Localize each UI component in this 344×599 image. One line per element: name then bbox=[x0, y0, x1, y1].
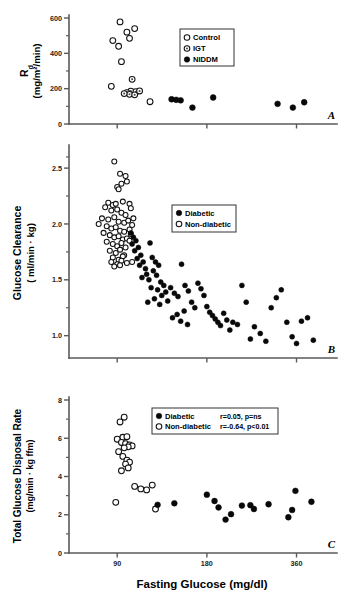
data-point-igt-dot bbox=[134, 94, 136, 96]
data-point-control bbox=[132, 26, 138, 32]
data-point-control bbox=[117, 19, 123, 25]
data-point-diabetic bbox=[274, 295, 279, 300]
data-point-control bbox=[108, 83, 114, 89]
legend-label-non-diabetic: Non-diabetic bbox=[185, 220, 231, 229]
legend-marker-diabetic bbox=[156, 413, 162, 419]
data-point-diabetic bbox=[168, 285, 173, 290]
x-ticklabel: 90 bbox=[113, 559, 121, 568]
data-point-non-diabetic bbox=[112, 264, 117, 269]
data-point-diabetic bbox=[144, 272, 149, 277]
data-point-diabetic bbox=[252, 324, 257, 329]
data-point-diabetic bbox=[163, 290, 168, 295]
data-point-diabetic bbox=[212, 498, 218, 504]
panel-A-y-ticklabel: 600 bbox=[50, 14, 62, 23]
data-point-diabetic bbox=[248, 337, 253, 342]
data-point-diabetic bbox=[235, 322, 240, 327]
panel-A-y-ticklabel: 400 bbox=[50, 49, 62, 58]
legend-label-diabetic: Diabetic bbox=[165, 412, 195, 421]
panel-C-y-ticklabel: 2 bbox=[58, 510, 62, 519]
data-point-non-diabetic bbox=[123, 173, 128, 178]
data-point-diabetic bbox=[285, 514, 291, 520]
data-point-diabetic bbox=[146, 277, 151, 282]
data-point-diabetic bbox=[159, 293, 164, 298]
figure-container: 0200400600A1.01.52.02.5B0246890180360CRd… bbox=[0, 0, 344, 599]
data-point-non-diabetic bbox=[117, 419, 123, 425]
data-point-non-diabetic bbox=[149, 482, 155, 488]
data-point-diabetic bbox=[216, 505, 222, 511]
legend-marker-diabetic bbox=[176, 210, 182, 216]
data-point-niddm bbox=[301, 99, 307, 105]
data-point-diabetic bbox=[175, 294, 180, 299]
data-point-diabetic bbox=[289, 507, 295, 513]
data-point-diabetic bbox=[198, 286, 203, 291]
data-point-non-diabetic bbox=[116, 449, 122, 455]
data-point-diabetic bbox=[128, 230, 133, 235]
data-point-diabetic bbox=[171, 500, 177, 506]
panel-A-y-ticklabel: 200 bbox=[50, 84, 62, 93]
data-point-non-diabetic bbox=[138, 486, 144, 492]
data-point-diabetic bbox=[175, 312, 180, 317]
data-point-diabetic bbox=[170, 315, 175, 320]
data-point-non-diabetic bbox=[122, 229, 127, 234]
data-point-diabetic bbox=[284, 320, 289, 325]
data-point-diabetic bbox=[179, 262, 184, 267]
data-point-non-diabetic bbox=[124, 261, 129, 266]
data-point-non-diabetic bbox=[124, 434, 130, 440]
panel-C-y-axis-units: (mg/min · kg ffm) bbox=[25, 440, 35, 513]
x-ticklabel: 360 bbox=[291, 559, 303, 568]
data-point-diabetic bbox=[154, 273, 159, 278]
panel-A-y-axis-units: (mg/m²/min) bbox=[31, 44, 42, 99]
data-point-diabetic bbox=[269, 305, 274, 310]
data-point-non-diabetic bbox=[130, 223, 135, 228]
legend-label-non-diabetic: Non-diabetic bbox=[165, 422, 211, 431]
data-point-non-diabetic bbox=[116, 187, 121, 192]
data-point-diabetic bbox=[239, 283, 244, 288]
data-point-non-diabetic bbox=[118, 263, 123, 268]
data-point-non-diabetic bbox=[119, 240, 124, 245]
data-point-diabetic bbox=[224, 318, 229, 323]
data-point-control bbox=[124, 29, 130, 35]
data-point-diabetic bbox=[155, 502, 161, 508]
data-point-diabetic bbox=[195, 281, 200, 286]
data-point-diabetic bbox=[182, 283, 187, 288]
data-point-non-diabetic bbox=[109, 208, 114, 213]
data-point-diabetic bbox=[309, 499, 315, 505]
data-point-control bbox=[110, 38, 116, 44]
legend-label-igt: IGT bbox=[193, 44, 206, 53]
data-point-non-diabetic bbox=[119, 468, 125, 474]
data-point-diabetic bbox=[293, 488, 299, 494]
data-point-non-diabetic bbox=[118, 247, 123, 252]
data-point-diabetic bbox=[204, 304, 209, 309]
data-point-diabetic bbox=[218, 323, 223, 328]
legend-marker-control bbox=[184, 35, 190, 41]
data-point-diabetic bbox=[201, 293, 206, 298]
data-point-niddm bbox=[210, 95, 216, 101]
data-point-diabetic bbox=[156, 263, 161, 268]
legend-marker-non-diabetic bbox=[176, 221, 182, 227]
data-point-igt-dot bbox=[131, 78, 133, 80]
data-point-diabetic bbox=[135, 256, 140, 261]
panel-letter-A: A bbox=[327, 109, 335, 121]
data-point-diabetic bbox=[258, 331, 263, 336]
data-point-diabetic bbox=[230, 320, 235, 325]
data-point-diabetic bbox=[157, 302, 162, 307]
data-point-diabetic bbox=[148, 240, 153, 245]
data-point-non-diabetic bbox=[103, 205, 108, 210]
data-point-diabetic bbox=[263, 339, 268, 344]
data-point-non-diabetic bbox=[123, 245, 128, 250]
data-point-non-diabetic bbox=[99, 216, 104, 221]
panel-B-y-axis-units: ( ml/min · kg) bbox=[25, 223, 36, 283]
data-point-diabetic bbox=[244, 300, 249, 305]
data-point-diabetic bbox=[145, 300, 150, 305]
data-point-non-diabetic bbox=[118, 171, 123, 176]
data-point-diabetic bbox=[223, 517, 229, 523]
data-point-non-diabetic bbox=[130, 259, 135, 264]
data-point-non-diabetic bbox=[101, 230, 106, 235]
data-point-diabetic bbox=[294, 341, 299, 346]
data-point-diabetic bbox=[204, 492, 210, 498]
legend-label-diabetic: Diabetic bbox=[185, 209, 215, 218]
data-point-diabetic bbox=[290, 334, 295, 339]
data-point-diabetic bbox=[150, 255, 155, 260]
data-point-non-diabetic bbox=[96, 221, 101, 226]
data-point-non-diabetic bbox=[131, 216, 136, 221]
